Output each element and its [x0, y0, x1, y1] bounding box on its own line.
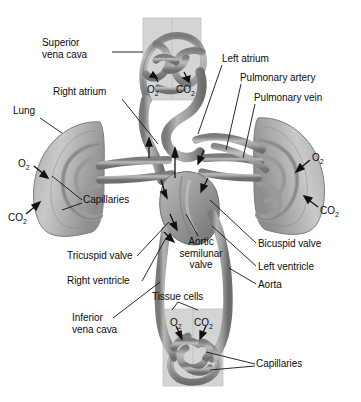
gas-label-right-lung-o2: O2 — [312, 152, 324, 165]
label-tricuspid-valve: Tricuspid valve — [67, 250, 133, 262]
gas-label-top-capillary-co2: CO2 — [176, 84, 195, 97]
gas-label-right-lung-co2: CO2 — [320, 205, 339, 218]
label-inferior-vena-cava: Inferior vena cava — [72, 312, 117, 335]
label-aortic-semilunar-valve: Aortic semilunar valve — [172, 236, 230, 271]
label-inferior-vena-cava-line2: vena cava — [72, 324, 117, 335]
circulatory-system-diagram: Superior vena cava Right atrium Lung Lef… — [0, 0, 361, 402]
label-bicuspid-valve: Bicuspid valve — [258, 238, 321, 250]
gas-label-top-capillary-o2: O2 — [147, 84, 159, 97]
pulmonary-vein-left-branch — [100, 174, 172, 180]
label-right-ventricle: Right ventricle — [67, 275, 130, 287]
leader-pulmonary-vein — [243, 104, 255, 158]
leader-lung-left — [40, 118, 62, 133]
diagram-canvas — [0, 0, 361, 402]
gas-label-tissue-co2: CO2 — [194, 317, 213, 330]
label-aorta: Aorta — [258, 279, 282, 291]
label-pulmonary-artery: Pulmonary artery — [240, 72, 315, 84]
label-inferior-vena-cava-line1: Inferior — [72, 312, 103, 323]
lung-right — [254, 118, 325, 235]
gas-label-left-lung-co2: CO2 — [8, 212, 27, 225]
label-pulmonary-vein: Pulmonary vein — [254, 92, 322, 104]
label-left-atrium: Left atrium — [222, 53, 269, 65]
label-tissue-cells: Tissue cells — [152, 291, 203, 303]
label-lung-left: Lung — [13, 105, 35, 117]
label-superior-vena-cava-line1: Superior — [42, 37, 79, 48]
label-left-ventricle: Left ventricle — [258, 261, 314, 273]
gas-label-left-lung-o2: O2 — [18, 158, 30, 171]
pulmonary-vein-right-branch — [202, 172, 258, 178]
superior-vena-cava-vessel — [144, 100, 162, 180]
label-superior-vena-cava: Superior vena cava — [42, 37, 87, 60]
label-capillaries-lung: Capillaries — [83, 194, 129, 206]
lung-left — [33, 122, 104, 237]
label-superior-vena-cava-line2: vena cava — [42, 49, 87, 60]
gas-label-tissue-o2: O2 — [170, 317, 182, 330]
label-aortic-semilunar-valve-line2: semilunar — [180, 248, 223, 259]
leader-aorta — [229, 268, 256, 284]
label-aortic-semilunar-valve-line1: Aortic — [188, 236, 213, 247]
label-capillaries-tissue: Capillaries — [256, 358, 302, 370]
label-aortic-semilunar-valve-line3: valve — [189, 259, 212, 270]
label-right-atrium: Right atrium — [53, 86, 106, 98]
